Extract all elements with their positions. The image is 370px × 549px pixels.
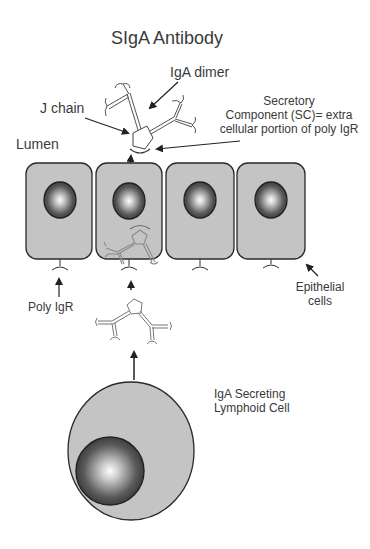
lymphoid-cell <box>68 382 194 520</box>
epithelial-cells-label: Epithelial cells <box>288 280 352 308</box>
secretory-component-arc <box>130 149 150 153</box>
j-chain-label: J chain <box>40 100 84 116</box>
epithelial-cells-arrow <box>307 265 318 276</box>
secretory-component-arrow <box>157 141 240 149</box>
diagram-canvas <box>0 0 370 549</box>
poly-igr-label: Poly IgR <box>28 300 73 314</box>
iga-dimer-arrow <box>150 82 178 108</box>
epithelial-cells-line-2: cells <box>288 294 352 308</box>
secretory-component-line-3: cellular portion of poly IgR <box>214 122 364 136</box>
lymphoid-cell-line-2: Lymphoid Cell <box>214 401 290 415</box>
diagram-title: SIgA Antibody <box>111 28 223 49</box>
lumen-label: Lumen <box>16 136 59 152</box>
lymphoid-cell-label: IgA Secreting Lymphoid Cell <box>214 387 290 415</box>
j-chain-arrow <box>85 118 128 133</box>
epithelial-cells <box>26 163 305 259</box>
lymphoid-cell-line-1: IgA Secreting <box>214 387 290 401</box>
iga-dimer-label: IgA dimer <box>170 64 229 80</box>
secretory-component-label: Secretory Component (SC)= extra cellular… <box>214 94 364 136</box>
epithelial-cells-line-1: Epithelial <box>288 280 352 294</box>
secretory-component-line-2: Component (SC)= extra <box>214 108 364 122</box>
iga-dimer-top <box>105 84 195 150</box>
iga-dimer-free <box>96 299 172 344</box>
poly-igr-receptors <box>52 259 279 270</box>
secretory-component-line-1: Secretory <box>214 94 364 108</box>
